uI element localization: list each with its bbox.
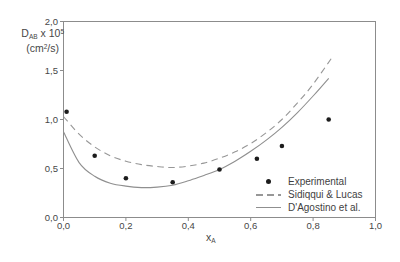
sidiqqui-lucas-curve bbox=[64, 58, 332, 168]
legend: Experimental Sidiqqui & Lucas D'Agostino… bbox=[255, 175, 363, 214]
x-axis-label: xA bbox=[206, 231, 216, 244]
legend-entry-experimental: Experimental bbox=[255, 175, 363, 188]
experimental-point bbox=[255, 156, 260, 161]
legend-label: D'Agostino et al. bbox=[288, 202, 361, 213]
y-tick-label: 1,0 bbox=[25, 114, 58, 125]
y-axis-label-line1: DAB x 105 bbox=[6, 26, 64, 41]
y-tick-label: 0,0 bbox=[25, 212, 58, 223]
legend-entry-dagostino: D'Agostino et al. bbox=[255, 201, 363, 214]
experimental-point bbox=[92, 154, 97, 159]
dashed-line-icon bbox=[255, 194, 282, 196]
experimental-point bbox=[326, 117, 331, 122]
experimental-point bbox=[170, 180, 175, 185]
y-tick-label: 1,5 bbox=[25, 65, 58, 76]
y-tick-label: 0,5 bbox=[25, 163, 58, 174]
x-tick-label: 0,6 bbox=[236, 220, 266, 231]
y-axis-label: DAB x 105 (cm2/s) bbox=[6, 26, 64, 57]
solid-line-icon bbox=[255, 207, 282, 209]
legend-entry-sidiqqui-lucas: Sidiqqui & Lucas bbox=[255, 188, 363, 201]
y-axis-label-line2: (cm2/s) bbox=[6, 41, 64, 56]
x-tick-label: 0,4 bbox=[173, 220, 203, 231]
experimental-point bbox=[280, 144, 285, 149]
x-tick-label: 0,8 bbox=[298, 220, 328, 231]
experimental-point bbox=[217, 167, 222, 172]
experimental-point bbox=[124, 176, 129, 181]
diffusion-coefficient-chart: DAB x 105 (cm2/s) xA 0,00,20,40,60,81,00… bbox=[0, 0, 400, 262]
y-tick-label: 2,0 bbox=[25, 16, 58, 27]
legend-label: Sidiqqui & Lucas bbox=[288, 189, 363, 200]
x-tick-label: 0,2 bbox=[111, 220, 141, 231]
dagostino-curve bbox=[64, 78, 329, 187]
legend-label: Experimental bbox=[288, 176, 346, 187]
experimental-point bbox=[64, 109, 69, 114]
scatter-marker-icon bbox=[255, 179, 282, 184]
x-tick-label: 1,0 bbox=[361, 220, 391, 231]
